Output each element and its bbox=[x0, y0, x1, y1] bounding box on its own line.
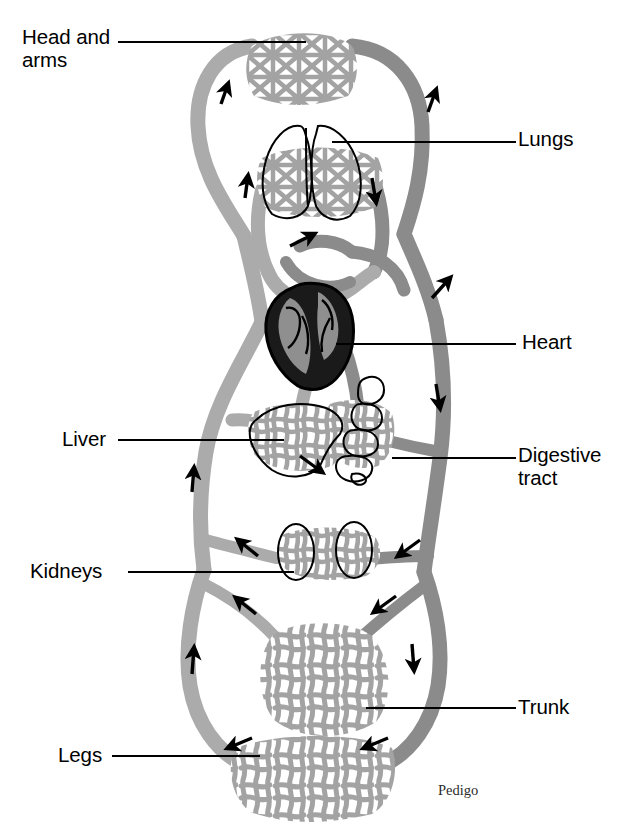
arrow-left-pulmonary bbox=[245, 176, 248, 198]
region-trunk-bed bbox=[260, 623, 388, 736]
arrow-left-upper-neck bbox=[221, 84, 228, 104]
artist-credit: Pedigo bbox=[438, 782, 478, 799]
label-legs: Legs bbox=[58, 744, 102, 767]
arrow-left-leg bbox=[192, 648, 194, 674]
label-kidneys: Kidneys bbox=[30, 560, 102, 583]
region-head-and-arms bbox=[246, 33, 357, 105]
label-trunk: Trunk bbox=[518, 696, 569, 719]
circulatory-diagram: Head and arms Lungs Heart Liver Digestiv… bbox=[0, 0, 631, 832]
label-digestive-tract: Digestive tract bbox=[518, 444, 601, 490]
label-heart: Heart bbox=[522, 331, 572, 354]
label-lungs: Lungs bbox=[518, 128, 573, 151]
region-lungs-bed bbox=[257, 148, 383, 218]
arrow-right-leg bbox=[412, 644, 414, 670]
arrow-right-aorta bbox=[432, 278, 450, 298]
organ-heart bbox=[266, 283, 354, 389]
label-head-and-arms: Head and arms bbox=[22, 26, 110, 72]
arrow-left-ascend bbox=[192, 468, 194, 492]
label-liver: Liver bbox=[62, 428, 106, 451]
region-legs-bed bbox=[231, 736, 395, 822]
arrow-right-upper-neck bbox=[428, 90, 436, 112]
